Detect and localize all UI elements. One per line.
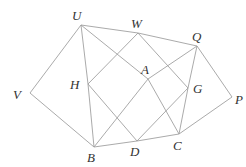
segment-GC: [179, 88, 188, 134]
point-label-H: H: [69, 77, 80, 92]
segment-WG: [138, 33, 188, 88]
segment-VB: [30, 93, 94, 147]
segment-HW: [88, 33, 138, 84]
segment-BH: [88, 84, 94, 147]
geometry-diagram: UWQVHAGPBDC: [0, 0, 246, 167]
segment-DH: [88, 84, 137, 141]
segment-WQ: [138, 33, 197, 46]
point-label-V: V: [13, 87, 23, 102]
segment-AC: [148, 79, 179, 134]
segment-QA: [148, 46, 197, 79]
point-label-W: W: [131, 16, 143, 31]
segment-PC: [179, 97, 232, 134]
point-label-A: A: [140, 62, 149, 77]
segment-AB: [94, 79, 148, 147]
point-label-G: G: [193, 81, 203, 96]
segment-HU: [81, 25, 88, 84]
point-label-U: U: [72, 8, 83, 23]
point-label-D: D: [129, 144, 140, 159]
point-label-P: P: [234, 92, 243, 107]
point-label-B: B: [87, 150, 95, 165]
point-label-Q: Q: [192, 29, 202, 44]
point-label-C: C: [173, 138, 182, 153]
